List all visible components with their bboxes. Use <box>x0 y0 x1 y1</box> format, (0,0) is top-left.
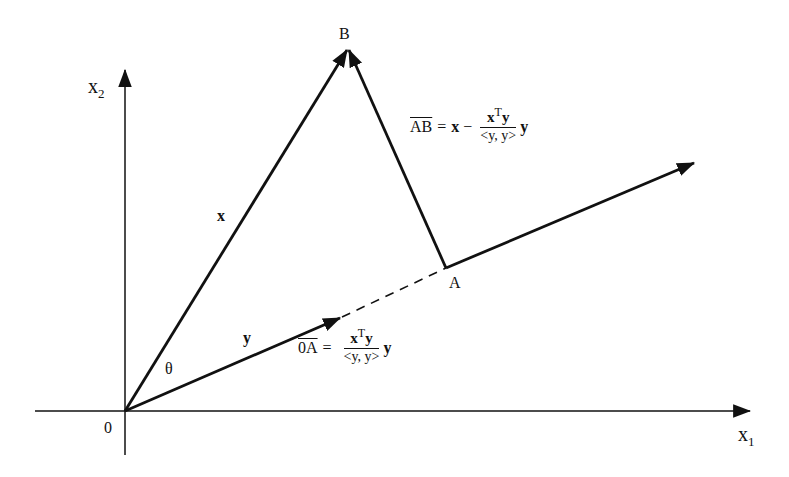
equation-oa: 0A = xTy <y, y> y <box>298 331 391 364</box>
diagram-canvas <box>0 0 789 477</box>
point-a-label: A <box>449 275 461 291</box>
equation-ab: AB = x − xTy <y, y> y <box>410 110 528 143</box>
projection-dashed <box>342 268 446 317</box>
x1-axis-label: x1 <box>738 424 755 444</box>
origin-label: 0 <box>104 420 112 436</box>
vector-x-label: x <box>217 208 225 224</box>
point-b-label: B <box>339 26 350 42</box>
ab-lhs: AB <box>410 119 432 135</box>
x2-axis-label: x2 <box>88 76 105 96</box>
oa-fraction: xTy <y, y> <box>344 331 380 364</box>
y-direction-line <box>446 163 694 268</box>
vector-y-label: y <box>243 330 251 346</box>
oa-lhs: 0A <box>298 340 318 356</box>
ab-fraction: xTy <y, y> <box>480 110 516 143</box>
vector-ab <box>349 50 446 268</box>
angle-theta-label: θ <box>165 361 173 377</box>
